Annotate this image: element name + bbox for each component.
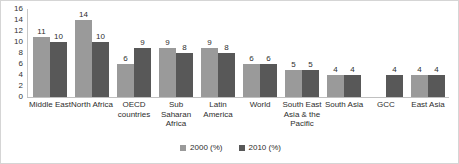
bar[interactable]: 10	[50, 42, 67, 97]
y-tick-label: 14	[14, 16, 23, 24]
y-tick-label: 2	[19, 82, 23, 90]
bar-slot: 14	[75, 9, 92, 97]
bar-slot: 5	[302, 9, 319, 97]
bar[interactable]: 6	[243, 64, 260, 97]
x-axis-category-label: East Asia	[407, 99, 449, 110]
bar-slot: 6	[260, 9, 277, 97]
bar[interactable]: 4	[327, 75, 344, 97]
bar[interactable]: 14	[75, 20, 92, 97]
bar-slot: 6	[243, 9, 260, 97]
bar-slot: 4	[386, 9, 403, 97]
bar-value-label: 4	[434, 65, 438, 74]
bar-group: 66	[239, 9, 281, 97]
y-axis-line	[27, 9, 28, 97]
bar[interactable]: 10	[92, 42, 109, 97]
bar-slot: 9	[159, 9, 176, 97]
x-axis-category-label: Latin America	[197, 99, 239, 119]
bar-group: 4	[365, 9, 407, 97]
bar-chart-figure: 16 14 12 10 8 6 4 2 0 111014106998986655…	[0, 0, 459, 164]
y-tick-label: 10	[14, 38, 23, 46]
legend-label: 2010 (%)	[249, 143, 281, 152]
bar-slot: 4	[428, 9, 445, 97]
x-axis-line	[27, 97, 449, 98]
legend-label: 2000 (%)	[190, 143, 222, 152]
bar-value-label: 5	[308, 60, 312, 69]
bar-slot: 9	[134, 9, 151, 97]
bar-group: 55	[281, 9, 323, 97]
bar[interactable]: 4	[428, 75, 445, 97]
bar[interactable]: 9	[134, 48, 151, 98]
bar-value-label: 6	[266, 54, 270, 63]
legend-item-2000[interactable]: 2000 (%)	[180, 143, 222, 152]
bar-group: 44	[323, 9, 365, 97]
bar[interactable]: 4	[411, 75, 428, 97]
bar-slot: 5	[285, 9, 302, 97]
bar-slot: 4	[411, 9, 428, 97]
bar[interactable]: 4	[386, 75, 403, 97]
y-tick-label: 6	[19, 60, 23, 68]
y-tick-label: 0	[19, 93, 23, 101]
x-axis-category-label: GCC	[365, 99, 407, 110]
x-axis-category-label: South East Asia & the Pacific	[281, 99, 323, 129]
y-tick-label: 4	[19, 71, 23, 79]
bar-value-label: 6	[249, 54, 253, 63]
bar-groups: 11101410699898665544444	[29, 9, 449, 97]
x-axis-category-label: Sub Saharan Africa	[155, 99, 197, 129]
bar-slot: 10	[50, 9, 67, 97]
bar-value-label: 9	[140, 38, 144, 47]
x-axis-category-label: OECD countries	[113, 99, 155, 119]
x-axis-category-label: World	[239, 99, 281, 110]
bar-group: 98	[155, 9, 197, 97]
bar-value-label: 9	[165, 38, 169, 47]
x-axis-category-label: South Asia	[323, 99, 365, 110]
bar-group: 1110	[29, 9, 71, 97]
bar-value-label: 8	[182, 43, 186, 52]
bar-value-label: 6	[123, 54, 127, 63]
bar-slot: 9	[201, 9, 218, 97]
bar-slot: 8	[218, 9, 235, 97]
x-axis-category-labels: Middle EastNorth AfricaOECD countriesSub…	[29, 99, 449, 139]
bar-value-label: 10	[54, 32, 63, 41]
bar-value-label: 9	[207, 38, 211, 47]
bar-slot: 6	[117, 9, 134, 97]
bar-value-label: 4	[392, 65, 396, 74]
bar-slot: 11	[33, 9, 50, 97]
bar-slot: 8	[176, 9, 193, 97]
bar-group: 98	[197, 9, 239, 97]
bar-value-label: 8	[224, 43, 228, 52]
bar[interactable]: 6	[117, 64, 134, 97]
bar[interactable]: 8	[218, 53, 235, 97]
bar[interactable]: 6	[260, 64, 277, 97]
bar[interactable]: 4	[344, 75, 361, 97]
x-axis-category-label: Middle East	[29, 99, 71, 110]
legend-swatch-icon	[180, 145, 186, 151]
bar-value-label: 11	[37, 27, 45, 36]
chart-legend: 2000 (%) 2010 (%)	[1, 143, 459, 152]
bar[interactable]: 11	[33, 37, 50, 98]
bar[interactable]: 9	[159, 48, 176, 98]
bar[interactable]: 5	[302, 70, 319, 98]
x-axis-category-label: North Africa	[71, 99, 113, 110]
bar-slot	[369, 9, 386, 97]
bar[interactable]: 8	[176, 53, 193, 97]
bar-value-label: 14	[79, 10, 88, 19]
bar-value-label: 5	[291, 60, 295, 69]
bar-value-label: 10	[96, 32, 105, 41]
y-tick-label: 8	[19, 49, 23, 57]
y-tick-label: 12	[14, 27, 23, 35]
bar-value-label: 4	[417, 65, 421, 74]
bar[interactable]: 5	[285, 70, 302, 98]
bar-group: 44	[407, 9, 449, 97]
bar-value-label: 4	[350, 65, 354, 74]
legend-swatch-icon	[239, 145, 245, 151]
y-axis: 16 14 12 10 8 6 4 2 0	[1, 9, 27, 97]
bar-value-label: 4	[333, 65, 337, 74]
bar-slot: 10	[92, 9, 109, 97]
y-tick-label: 16	[14, 5, 23, 13]
bar-group: 69	[113, 9, 155, 97]
bar-slot: 4	[344, 9, 361, 97]
legend-item-2010[interactable]: 2010 (%)	[239, 143, 281, 152]
bar[interactable]: 9	[201, 48, 218, 98]
bar-slot: 4	[327, 9, 344, 97]
bar-group: 1410	[71, 9, 113, 97]
